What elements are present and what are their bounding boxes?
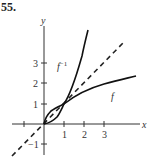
y-tick-neg1: −1 bbox=[28, 139, 39, 150]
x-tick-2: 2 bbox=[82, 129, 87, 140]
curve-f-inverse bbox=[44, 30, 88, 124]
y-tick-1: 1 bbox=[33, 99, 38, 110]
curve-f bbox=[44, 76, 136, 124]
y-tick-3: 3 bbox=[33, 58, 38, 69]
f-inverse-label: f−1 bbox=[57, 60, 68, 72]
x-tick-3: 3 bbox=[102, 129, 107, 140]
y-axis-label: y bbox=[40, 15, 46, 26]
graph: 1 2 3 1 2 3 −1 x y f−1 f bbox=[0, 0, 151, 159]
x-axis-label: x bbox=[141, 119, 147, 130]
f-label: f bbox=[111, 91, 115, 102]
y-tick-2: 2 bbox=[33, 78, 38, 89]
x-tick-1: 1 bbox=[62, 129, 67, 140]
